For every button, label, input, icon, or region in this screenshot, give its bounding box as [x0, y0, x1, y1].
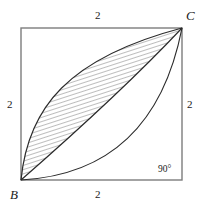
vertex-label-b: B — [10, 188, 18, 201]
side-label-left: 2 — [7, 99, 13, 110]
side-label-top: 2 — [95, 10, 101, 21]
geometry-figure: 2 2 2 2 C B 90° — [0, 0, 203, 209]
geometry-canvas — [0, 0, 203, 209]
right-angle-label: 90° — [158, 165, 171, 175]
vertex-label-c: C — [186, 9, 195, 22]
side-label-bottom: 2 — [95, 189, 101, 200]
side-label-right: 2 — [187, 99, 193, 110]
